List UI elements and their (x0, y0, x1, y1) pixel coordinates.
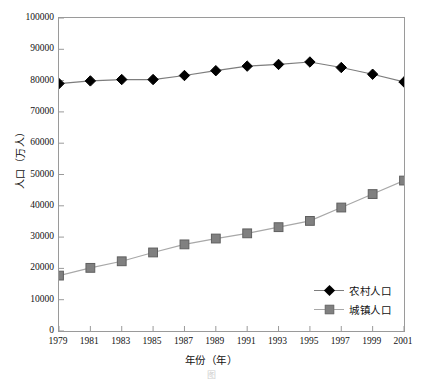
x-tick-label: 2001 (394, 336, 413, 346)
x-axis-title: 年份（年） (0, 352, 422, 367)
y-tick-label: 60000 (0, 137, 54, 147)
x-tick-label: 1985 (143, 336, 162, 346)
y-tick-label: 40000 (0, 200, 54, 210)
x-tick-label: 1981 (80, 336, 99, 346)
y-tick-label: 50000 (0, 169, 54, 179)
y-tick-label: 30000 (0, 231, 54, 241)
legend-label-rural: 农村人口 (349, 283, 391, 298)
y-axis-tick-labels: 1000009000080000700006000050000400003000… (0, 17, 54, 332)
y-tick-label: 100000 (0, 12, 54, 22)
x-tick-label: 1987 (174, 336, 193, 346)
x-tick-label: 1989 (205, 336, 224, 346)
x-tick-label: 1997 (331, 336, 350, 346)
y-tick-label: 70000 (0, 106, 54, 116)
x-tick-label: 1979 (49, 336, 68, 346)
legend-item-urban: 城镇人口 (314, 300, 391, 319)
legend-label-urban: 城镇人口 (349, 302, 391, 317)
x-tick-label: 1995 (299, 336, 318, 346)
chart-legend: 农村人口 城镇人口 (314, 281, 391, 319)
figure-caption: 图 (0, 368, 422, 381)
y-tick-label: 80000 (0, 75, 54, 85)
x-tick-label: 1999 (362, 336, 381, 346)
legend-item-rural: 农村人口 (314, 281, 391, 300)
x-tick-label: 1983 (111, 336, 130, 346)
square-marker-icon (314, 304, 344, 316)
x-tick-label: 1993 (268, 336, 287, 346)
x-tick-label: 1991 (237, 336, 256, 346)
y-tick-label: 10000 (0, 294, 54, 304)
y-tick-label: 20000 (0, 262, 54, 272)
y-tick-label: 90000 (0, 43, 54, 53)
diamond-marker-icon (314, 285, 344, 297)
y-tick-label: 0 (0, 325, 54, 335)
